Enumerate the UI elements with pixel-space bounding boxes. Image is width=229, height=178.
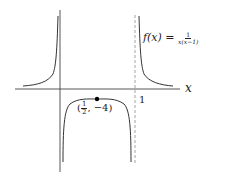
curve-left-branch bbox=[23, 16, 58, 86]
point-label: (12, −4) bbox=[77, 101, 112, 116]
curve-right-branch bbox=[139, 16, 173, 86]
function-label: f(x) = 1 x(x−1) bbox=[143, 31, 198, 45]
function-fraction: 1 x(x−1) bbox=[178, 32, 198, 45]
asymptote-tick-label: 1 bbox=[139, 94, 145, 105]
function-denominator: x(x−1) bbox=[178, 39, 198, 45]
point-label-denominator: 2 bbox=[82, 109, 86, 116]
x-axis-label: x bbox=[185, 81, 192, 95]
function-lhs: f(x) = bbox=[143, 31, 175, 44]
function-graph bbox=[0, 0, 229, 178]
point-label-rest: , −4) bbox=[87, 102, 112, 113]
